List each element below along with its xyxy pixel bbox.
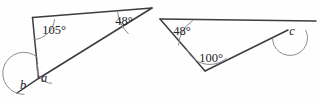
angle-label-105: 105° (42, 23, 66, 37)
angle-label-c: c (289, 24, 295, 38)
left-triangle-top-side (33, 8, 153, 18)
angle-label-48-left: 48° (115, 14, 133, 28)
angle-label-48-right: 48° (173, 24, 191, 38)
angle-label-100: 100° (199, 51, 223, 65)
right-triangle-group: 48° 100° c (160, 19, 316, 71)
left-triangle-left-side (33, 18, 39, 79)
geometry-canvas: 105° 48° a b 48° 100° c (0, 0, 319, 105)
angle-label-a: a (41, 71, 47, 85)
right-triangle-top-side-extended (160, 19, 316, 21)
geometry-figure: 105° 48° a b 48° 100° c (0, 0, 319, 105)
angle-label-b: b (20, 78, 26, 92)
left-triangle-group: 105° 48° a b (3, 8, 152, 94)
